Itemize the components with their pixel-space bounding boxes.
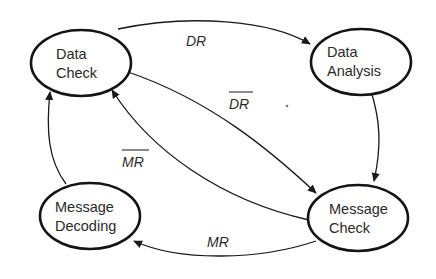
edge-label-mr-bar: MR bbox=[122, 150, 149, 170]
svg-text:DR: DR bbox=[186, 33, 206, 49]
node-data-check: Data Check bbox=[31, 30, 131, 96]
scan-artifact-dot bbox=[286, 105, 289, 108]
svg-text:DR: DR bbox=[229, 96, 249, 112]
edge-label-mr: MR bbox=[207, 234, 229, 250]
svg-text:Data: Data bbox=[327, 44, 359, 60]
edge-data-analysis-to-message-check bbox=[371, 91, 379, 181]
edge-data-check-to-data-analysis bbox=[118, 21, 310, 44]
svg-text:Message: Message bbox=[55, 199, 114, 215]
svg-text:Check: Check bbox=[329, 220, 371, 236]
node-message-check: Message Check bbox=[308, 185, 408, 251]
edge-label-dr-bar: DR bbox=[229, 92, 253, 112]
svg-text:Check: Check bbox=[56, 65, 98, 81]
node-message-decoding: Message Decoding bbox=[40, 183, 140, 249]
svg-text:Message: Message bbox=[329, 201, 388, 217]
state-diagram: DR DR MR MR Data Check Data Analysis Mes… bbox=[0, 0, 436, 279]
svg-text:Analysis: Analysis bbox=[327, 63, 381, 79]
svg-text:Data: Data bbox=[56, 46, 88, 62]
svg-text:Decoding: Decoding bbox=[55, 218, 116, 234]
svg-text:MR: MR bbox=[207, 234, 229, 250]
edge-message-decoding-to-data-check bbox=[48, 92, 66, 184]
svg-text:MR: MR bbox=[122, 154, 144, 170]
edge-label-dr: DR bbox=[186, 33, 206, 49]
node-data-analysis: Data Analysis bbox=[311, 29, 411, 95]
edge-data-check-to-message-check bbox=[128, 72, 316, 193]
